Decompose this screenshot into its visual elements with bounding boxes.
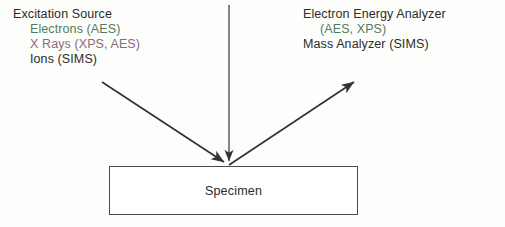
emitted-beam-diagonal-arrow	[229, 82, 354, 165]
diagram-canvas: Excitation Source Electrons (AES) X Rays…	[0, 0, 505, 227]
incident-beam-diagonal-arrow	[102, 82, 224, 162]
specimen-box: Specimen	[109, 166, 358, 215]
specimen-label: Specimen	[110, 167, 357, 214]
